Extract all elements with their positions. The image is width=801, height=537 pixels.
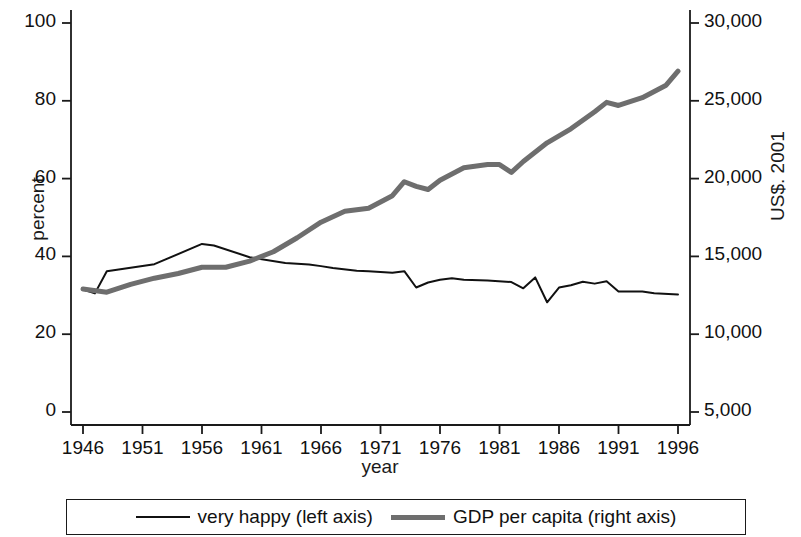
legend-entry-gdp-per-capita: GDP per capita (right axis) — [382, 506, 686, 528]
series-group — [83, 71, 678, 302]
y-tick-label-left: 60 — [0, 166, 56, 188]
y-tick-label-right: 5,000 — [704, 399, 801, 421]
x-axis-label: year — [0, 456, 760, 478]
y-tick-label-right: 30,000 — [704, 10, 801, 32]
y-tick-label-left: 100 — [0, 10, 56, 32]
legend-entry-very-happy: very happy (left axis) — [127, 506, 382, 528]
legend-label-gdp-per-capita: GDP per capita (right axis) — [453, 506, 677, 528]
legend-line-swatch-gdp — [391, 515, 445, 520]
chart-figure: percent US$. 2001 year 020406080100 5,00… — [0, 0, 801, 537]
y-tick-label-right: 20,000 — [704, 166, 801, 188]
y-tick-label-left: 0 — [0, 399, 56, 421]
y-tick-label-right: 15,000 — [704, 243, 801, 265]
y-tick-label-left: 80 — [0, 88, 56, 110]
y-tick-label-left: 20 — [0, 321, 56, 343]
series-line-gdp-per-capita — [83, 71, 678, 292]
y-tick-label-left: 40 — [0, 243, 56, 265]
chart-legend: very happy (left axis) GDP per capita (r… — [66, 499, 746, 535]
axes-group — [62, 10, 699, 434]
legend-line-swatch-very-happy — [136, 516, 190, 518]
y-tick-label-right: 10,000 — [704, 321, 801, 343]
legend-label-very-happy: very happy (left axis) — [198, 506, 373, 528]
x-tick-label: 1996 — [638, 437, 718, 459]
y-tick-label-right: 25,000 — [704, 88, 801, 110]
